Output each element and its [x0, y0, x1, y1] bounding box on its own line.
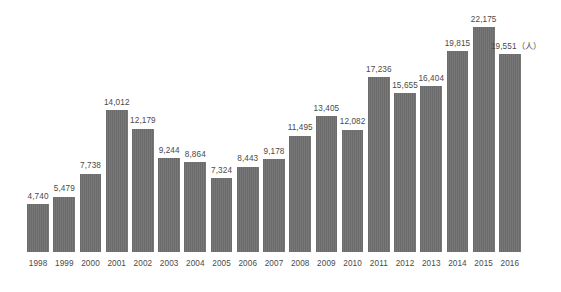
- bar-value-label: 14,012: [104, 99, 130, 107]
- bar: [184, 162, 206, 252]
- bar-group: 9,178: [261, 14, 287, 252]
- bar-group: 19,815: [444, 14, 470, 252]
- bar: [106, 110, 128, 252]
- bar-group: 7,324: [208, 14, 234, 252]
- bar: [447, 51, 469, 252]
- x-axis-tick-2016: 2016: [497, 260, 523, 268]
- bar: [211, 178, 233, 252]
- bar-group: 8,443: [235, 14, 261, 252]
- x-axis-tick-2012: 2012: [392, 260, 418, 268]
- x-axis-tick-2008: 2008: [287, 260, 313, 268]
- bar-value-label: 15,655: [392, 82, 418, 90]
- x-axis-tick-2013: 2013: [418, 260, 444, 268]
- bar-value-label: 8,864: [185, 151, 206, 159]
- bar-value-label: 17,236: [366, 66, 392, 74]
- bar: [289, 136, 311, 252]
- bar: [316, 116, 338, 252]
- x-axis-tick-2003: 2003: [156, 260, 182, 268]
- bar-group: 7,738: [77, 14, 103, 252]
- bar-group: 12,179: [130, 14, 156, 252]
- bar-group: 11,495: [287, 14, 313, 252]
- plot-area: 4,7405,4797,73814,01212,1799,2448,8647,3…: [25, 14, 523, 252]
- bar-value-label: 9,244: [159, 147, 180, 155]
- x-axis-tick-2004: 2004: [182, 260, 208, 268]
- bar-value-label: 8,443: [237, 155, 258, 163]
- bar: [499, 54, 521, 252]
- bar-group: 16,404: [418, 14, 444, 252]
- bar-chart: 4,7405,4797,73814,01212,1799,2448,8647,3…: [0, 0, 561, 292]
- bar-group: 5,479: [51, 14, 77, 252]
- bar-value-label: 4,740: [28, 193, 49, 201]
- bar-value-label: 9,178: [263, 148, 284, 156]
- bar-value-label: 5,479: [54, 185, 75, 193]
- x-axis-tick-2011: 2011: [366, 260, 392, 268]
- bar: [80, 174, 102, 252]
- bar-group: 14,012: [104, 14, 130, 252]
- x-axis-tick-2001: 2001: [104, 260, 130, 268]
- bar-value-label: 11,495: [288, 124, 313, 132]
- bar-group: 13,405: [313, 14, 339, 252]
- bar-value-label: 16,404: [418, 75, 444, 83]
- bar: [132, 129, 154, 252]
- bar-value-label: 7,738: [80, 162, 101, 170]
- bar: [263, 159, 285, 252]
- bar: [27, 204, 49, 252]
- bar-value-label: 19,815: [445, 40, 471, 48]
- bar-value-label: 22,175: [471, 16, 497, 24]
- bar: [394, 93, 416, 252]
- x-axis-tick-2007: 2007: [261, 260, 287, 268]
- x-axis-tick-2005: 2005: [208, 260, 234, 268]
- x-axis-tick-2010: 2010: [340, 260, 366, 268]
- bar-value-label: 7,324: [211, 167, 232, 175]
- bar-group: 15,655: [392, 14, 418, 252]
- x-axis-tick-2014: 2014: [444, 260, 470, 268]
- bar: [237, 167, 259, 253]
- bar: [368, 77, 390, 252]
- bar-group: 4,740: [25, 14, 51, 252]
- bar: [342, 130, 364, 252]
- bar: [473, 27, 495, 252]
- bar-group: 9,244: [156, 14, 182, 252]
- bar-value-label: 12,082: [340, 118, 366, 126]
- bar-value-label: 12,179: [130, 117, 156, 125]
- x-axis-tick-2009: 2009: [313, 260, 339, 268]
- bar: [420, 86, 442, 252]
- x-axis-tick-1998: 1998: [25, 260, 51, 268]
- x-axis-tick-2002: 2002: [130, 260, 156, 268]
- x-axis: 1998199920002001200220032004200520062007…: [25, 260, 523, 274]
- x-axis-tick-2015: 2015: [471, 260, 497, 268]
- bar: [158, 158, 180, 252]
- bar-group: 19,551（人）: [497, 14, 523, 252]
- bar-value-label: 19,551（人）: [491, 43, 541, 51]
- bar: [53, 197, 75, 252]
- bar-group: 17,236: [366, 14, 392, 252]
- x-axis-tick-1999: 1999: [51, 260, 77, 268]
- bar-group: 8,864: [182, 14, 208, 252]
- x-axis-tick-2000: 2000: [77, 260, 103, 268]
- bar-value-label: 13,405: [314, 105, 340, 113]
- bar-group: 12,082: [340, 14, 366, 252]
- x-axis-tick-2006: 2006: [235, 260, 261, 268]
